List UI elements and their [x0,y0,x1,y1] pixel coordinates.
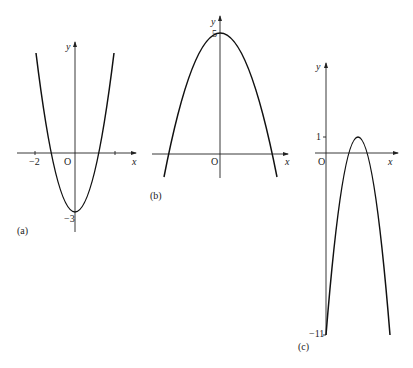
curve-b [164,33,277,177]
graphs-canvas [0,0,413,368]
y-tick-c2: −11 [309,329,324,339]
origin-label-b: O [211,157,218,167]
y-tick-b: 5 [212,29,217,39]
y-label-c: y [316,62,320,72]
x-tick-a: −2 [29,157,40,167]
panel-label-a: (a) [17,226,28,236]
origin-label-c: O [318,157,325,167]
panel-label-c: (c) [298,342,309,352]
x-label-a: x [132,157,136,167]
x-label-c: x [388,157,392,167]
y-label-a: y [66,42,70,52]
panel-label-b: (b) [150,191,162,201]
y-tick-a: −3 [64,214,75,224]
y-tick-c1: 1 [316,132,321,142]
y-label-b: y [211,17,215,27]
origin-label-a: O [64,157,71,167]
curve-c [326,137,390,335]
x-label-b: x [285,157,289,167]
